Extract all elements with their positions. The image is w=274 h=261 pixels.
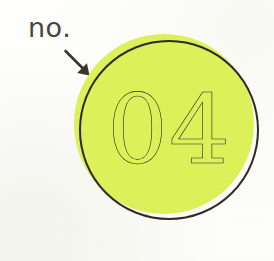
badge-number-text: 04: [107, 75, 231, 185]
annotation-label: no.: [28, 14, 71, 41]
illustration-canvas: no. 04: [0, 0, 274, 261]
number-badge: 04: [74, 34, 268, 228]
badge-number: 04: [79, 40, 259, 220]
